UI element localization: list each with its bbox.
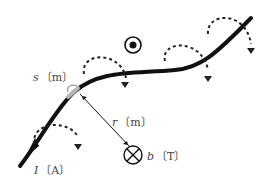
segment-label: s〔m〕	[33, 71, 73, 84]
biot-savart-diagram: s〔m〕 r〔m〕 b〔T〕 I〔A〕	[0, 0, 271, 180]
field-arrow-1	[74, 144, 82, 150]
field-arrowheads	[74, 48, 255, 150]
current-wire	[20, 18, 251, 166]
field-label: b〔T〕	[147, 150, 185, 163]
field-arrow-4	[247, 48, 255, 54]
field-out-of-page-icon	[125, 37, 141, 53]
field-into-page-icon	[124, 146, 142, 164]
current-label: I〔A〕	[33, 164, 70, 177]
distance-label: r〔m〕	[112, 116, 152, 129]
field-arrow-3	[204, 76, 212, 82]
field-arrow-2	[121, 82, 129, 88]
